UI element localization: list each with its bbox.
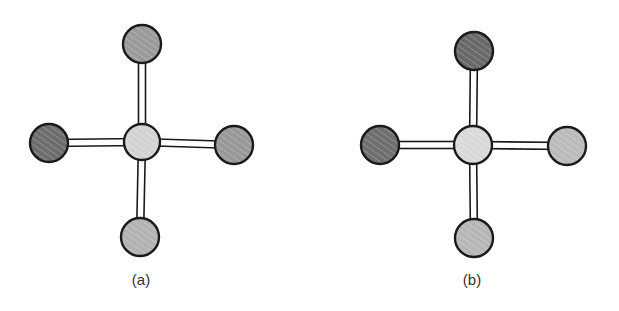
panel-a-label: (a)	[132, 271, 150, 288]
ligand-atom-right	[548, 127, 586, 165]
ligand-atom-left	[30, 124, 68, 162]
panel-b-label: (b)	[463, 271, 481, 288]
ligand-atom-top	[123, 25, 161, 63]
ligand-atom-right	[215, 126, 253, 164]
panel-a-molecule	[30, 25, 253, 256]
ligand-atom-top	[455, 32, 493, 70]
molecule-diagram	[0, 0, 619, 311]
ligand-atom-bottom	[455, 219, 493, 257]
ligand-atom-left	[361, 126, 399, 164]
ligand-atom-bottom	[121, 218, 159, 256]
center-atom	[124, 124, 160, 160]
panel-b-molecule	[361, 32, 586, 257]
center-atom	[454, 126, 492, 164]
